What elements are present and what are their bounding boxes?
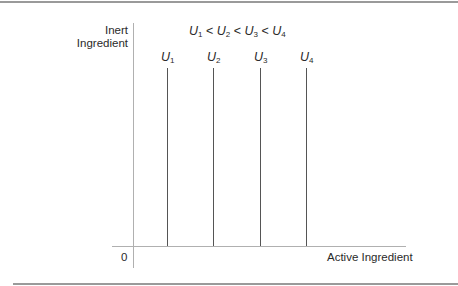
top-rule <box>0 1 458 3</box>
ordering-annotation: U1 < U2 < U3 < U4 <box>189 25 286 41</box>
indifference-line-u1 <box>167 68 168 246</box>
y-axis-label-line2: Ingredient <box>60 37 128 50</box>
x-axis-label: Active Ingredient <box>327 251 413 264</box>
indifference-line-u3 <box>260 68 261 246</box>
y-axis-label-line1: Inert <box>60 24 128 37</box>
y-axis-label: Inert Ingredient <box>60 24 128 50</box>
u2-label: U2 <box>207 51 220 67</box>
origin-label: 0 <box>121 251 127 264</box>
u1-label: U1 <box>161 51 174 67</box>
y-axis <box>133 23 134 268</box>
indifference-line-u2 <box>213 68 214 246</box>
x-axis <box>112 246 406 247</box>
indifference-line-u4 <box>306 68 307 246</box>
u3-label: U3 <box>254 51 267 67</box>
bottom-rule <box>13 283 458 285</box>
u4-label: U4 <box>300 51 313 67</box>
